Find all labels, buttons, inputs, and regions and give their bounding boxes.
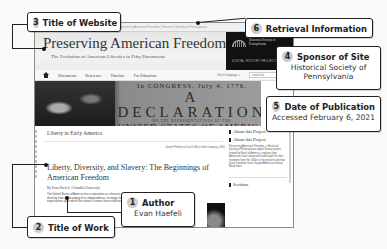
page-gutter	[34, 130, 37, 180]
image-caption: Jewish Petition to Dutch West India Comp…	[145, 146, 225, 150]
sidebar-blurb: Preserving American Freedom, a Historica…	[229, 145, 287, 165]
callout-author: 1 Author Evan Haefeli	[121, 192, 195, 227]
section-title: Liberty in Early America	[47, 130, 102, 136]
declaration-image: In CONGRESS, July 4, 1776. A DECLARATION…	[117, 83, 261, 126]
site-title[interactable]: Preserving American Freedom	[43, 35, 226, 52]
pointer-dot	[44, 163, 48, 167]
callout-label: Title of Work	[48, 223, 109, 233]
pointer-dot	[196, 21, 200, 25]
callout-date-of-publication: 5 Date of Publication Accessed February …	[266, 96, 381, 132]
site-subtitle: The Evolution of American Liberties in F…	[51, 54, 165, 59]
connector-line	[12, 48, 44, 49]
callout-number: 4	[282, 51, 293, 62]
callout-label: Date of Publication	[284, 102, 375, 112]
callout-sponsor-of-site: 4 Sponsor of Site Historical Society of …	[276, 46, 381, 90]
sidebar-heading-about-2: About this Project	[229, 137, 287, 142]
callout-number: 2	[33, 222, 44, 233]
pointer-dot	[42, 47, 46, 51]
callout-label: Retrieval Information	[266, 24, 367, 34]
connector-line	[12, 24, 13, 49]
main-nav: Documents Reference Timeline For Educato…	[35, 70, 293, 81]
hero-banner: In CONGRESS, July 4, 1776. A DECLARATION…	[35, 81, 261, 126]
sidebar-heading-sections[interactable]: Sections	[229, 182, 287, 187]
callout-number: 1	[127, 197, 138, 208]
connector-line	[12, 227, 28, 228]
sunburst-icon	[232, 40, 246, 47]
callout-value: Historical Society of Pennsylvania	[282, 63, 375, 81]
callout-number: 5	[272, 101, 280, 112]
callout-value: Accessed February 6, 2021	[272, 113, 375, 122]
hero-photo	[35, 81, 115, 126]
scrollbar[interactable]	[289, 123, 291, 183]
callout-value: Evan Haefeli	[127, 209, 189, 218]
language-select[interactable]: Select Language ▾	[217, 73, 240, 77]
article-byline: By Evan Haefeli, Columbia University	[47, 186, 100, 190]
nav-item-documents[interactable]: Documents	[58, 73, 76, 78]
sidebar-divider	[229, 177, 287, 178]
connector-line	[12, 164, 13, 228]
callout-label: Sponsor of Site	[297, 52, 369, 62]
callout-label: Author	[142, 198, 174, 208]
nav-item-timeline[interactable]: Timeline	[110, 73, 124, 78]
callout-title-of-website: 3 Title of Website	[27, 12, 121, 32]
callout-number: 6	[251, 23, 262, 34]
article-title: Liberty, Diversity, and Slavery: The Beg…	[47, 163, 225, 183]
article-thumbnail	[207, 203, 225, 228]
divider	[43, 141, 223, 142]
read-more-link[interactable]: Read more	[229, 165, 287, 168]
callout-label: Title of Website	[43, 18, 118, 28]
connector-line	[12, 24, 28, 25]
sponsor-logo-name: Historical Society of Pennsylvania	[249, 38, 291, 46]
pointer-dot	[65, 196, 69, 200]
connector-line	[67, 212, 122, 213]
nav-item-for-educators[interactable]: For Educators	[134, 73, 157, 78]
nav-item-reference[interactable]: Reference	[85, 73, 101, 78]
connector-line	[12, 164, 45, 165]
home-icon[interactable]	[43, 72, 49, 78]
callout-number: 3	[33, 17, 39, 28]
sponsor-logo-tagline: DIGITAL HISTORY PROJECTS	[232, 59, 279, 63]
callout-title-of-work: 2 Title of Work	[27, 216, 115, 238]
callout-retrieval-information: 6 Retrieval Information	[245, 18, 373, 38]
sidebar: About this Project About this Project Pr…	[229, 126, 287, 228]
